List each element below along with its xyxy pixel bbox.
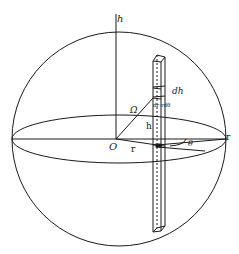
column-bottom-face [153, 226, 165, 232]
radius-label-r: r [131, 144, 136, 154]
height-label-h: h [146, 121, 152, 131]
omega-label: Ω [129, 105, 138, 115]
dh-label: dh [172, 86, 184, 96]
chord-lower [157, 147, 205, 151]
sphere-edge-label-r: r [226, 132, 231, 142]
sphere-column-diagram: h Ω h dh dr·rdθ O r θ r [0, 0, 239, 254]
origin-label: O [109, 141, 117, 152]
theta-label: θ [188, 139, 193, 148]
dh-slice-bottom [153, 96, 165, 97]
dh-slice-top [153, 86, 165, 87]
area-element-label: dr·rdθ [153, 102, 171, 108]
theta-arc [170, 139, 186, 146]
radius-line [116, 139, 157, 145]
axis-label-h: h [117, 13, 123, 24]
dh-slice-bottom-back [153, 98, 161, 99]
area-element-mark [156, 144, 161, 147]
column-top-face [153, 55, 165, 62]
dh-slice-top-back [153, 88, 161, 89]
